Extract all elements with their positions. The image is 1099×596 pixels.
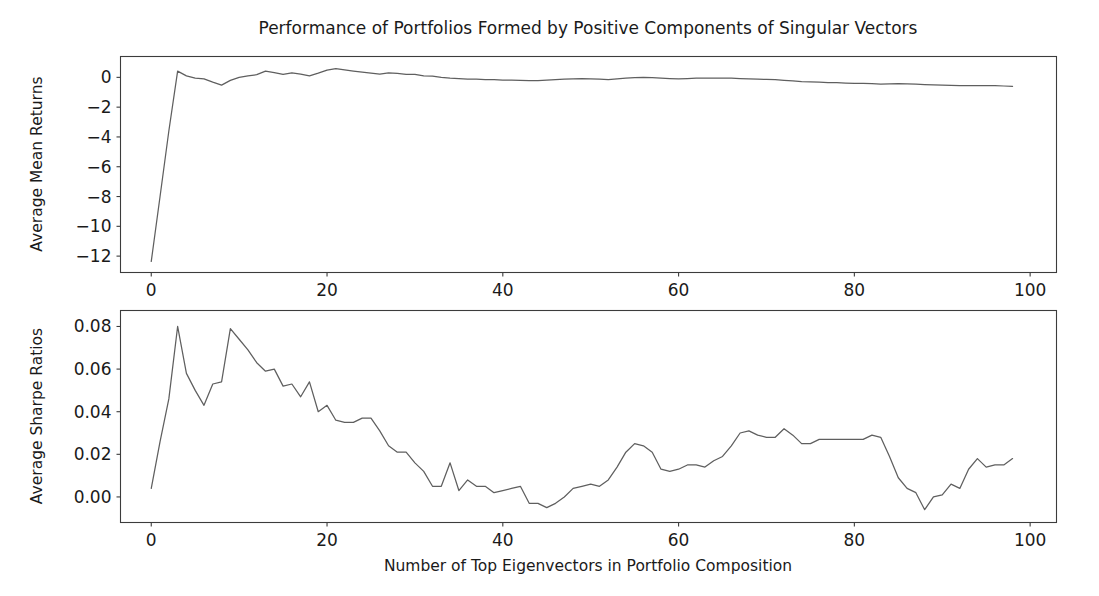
y-tick-label: −8 (86, 187, 111, 207)
chart-title: Performance of Portfolios Formed by Posi… (259, 18, 918, 38)
y-tick-label: 0.08 (74, 316, 112, 336)
bottom-x-axis-label: Number of Top Eigenvectors in Portfolio … (384, 557, 792, 575)
chart-canvas: Performance of Portfolios Formed by Posi… (0, 0, 1099, 596)
bottom-plot-frame (121, 311, 1057, 523)
x-tick-label: 20 (316, 280, 338, 300)
bottom-series-line (151, 326, 1012, 509)
top-plot-frame (121, 57, 1057, 273)
bottom-x-axis-ticks: 020406080100 (146, 523, 1047, 550)
bottom-y-axis-ticks: 0.000.020.040.060.08 (74, 316, 121, 506)
top-y-axis-ticks: 0−2−4−6−8−10−12 (76, 67, 121, 266)
x-tick-label: 80 (844, 530, 866, 550)
y-tick-label: −4 (86, 127, 111, 147)
x-tick-label: 20 (316, 530, 338, 550)
y-tick-label: 0.00 (74, 487, 112, 507)
y-tick-label: 0.04 (74, 402, 112, 422)
x-tick-label: 0 (146, 280, 157, 300)
y-tick-label: −12 (76, 246, 112, 266)
top-panel: 0−2−4−6−8−10−12 020406080100 Average Mea… (28, 57, 1057, 300)
y-tick-label: 0.06 (74, 359, 112, 379)
y-tick-label: −10 (76, 216, 112, 236)
top-series-line (151, 69, 1012, 262)
top-y-axis-label: Average Mean Returns (28, 76, 46, 251)
figure-container: Performance of Portfolios Formed by Posi… (0, 0, 1099, 596)
x-tick-label: 40 (492, 280, 514, 300)
x-tick-label: 60 (668, 280, 690, 300)
y-tick-label: 0 (101, 67, 112, 87)
x-tick-label: 60 (668, 530, 690, 550)
x-tick-label: 0 (146, 530, 157, 550)
bottom-panel: 0.000.020.040.060.08 020406080100 Averag… (28, 311, 1057, 576)
y-tick-label: −6 (86, 157, 111, 177)
x-tick-label: 100 (1014, 280, 1046, 300)
y-tick-label: 0.02 (74, 444, 112, 464)
x-tick-label: 80 (844, 280, 866, 300)
top-x-axis-ticks: 020406080100 (146, 273, 1047, 300)
x-tick-label: 100 (1014, 530, 1046, 550)
bottom-y-axis-label: Average Sharpe Ratios (28, 328, 46, 504)
x-tick-label: 40 (492, 530, 514, 550)
y-tick-label: −2 (86, 97, 111, 117)
